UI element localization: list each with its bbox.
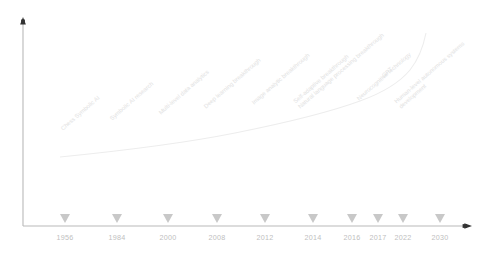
year-label-2016: 2016: [343, 233, 360, 242]
year-label-2030: 2030: [431, 233, 448, 242]
tick-marker-group: [60, 214, 445, 223]
tick-marker-2012: [260, 214, 270, 223]
year-label-1984: 1984: [108, 233, 125, 242]
x-axis-arrow-cap-icon: [463, 224, 467, 228]
tick-marker-2000: [163, 214, 173, 223]
year-label-2022: 2022: [394, 233, 411, 242]
tick-marker-1984: [112, 214, 122, 223]
tick-marker-2008: [212, 214, 222, 223]
tick-marker-2030: [435, 214, 445, 223]
chart-plot-area: [0, 0, 491, 255]
y-axis-arrow-cap-icon: [21, 20, 25, 24]
tick-marker-2022: [398, 214, 408, 223]
year-label-2017: 2017: [369, 233, 386, 242]
tick-marker-1956: [60, 214, 70, 223]
tick-marker-2016: [347, 214, 357, 223]
year-label-1956: 1956: [56, 233, 73, 242]
year-label-2014: 2014: [304, 233, 321, 242]
year-label-2012: 2012: [256, 233, 273, 242]
year-label-2008: 2008: [208, 233, 225, 242]
year-label-2000: 2000: [159, 233, 176, 242]
timeline-chart-canvas: 1956 1984 2000 2008 2012 2014 2016 2017 …: [0, 0, 491, 255]
tick-marker-2017: [373, 214, 383, 223]
growth-curve: [60, 33, 426, 157]
tick-marker-2014: [308, 214, 318, 223]
